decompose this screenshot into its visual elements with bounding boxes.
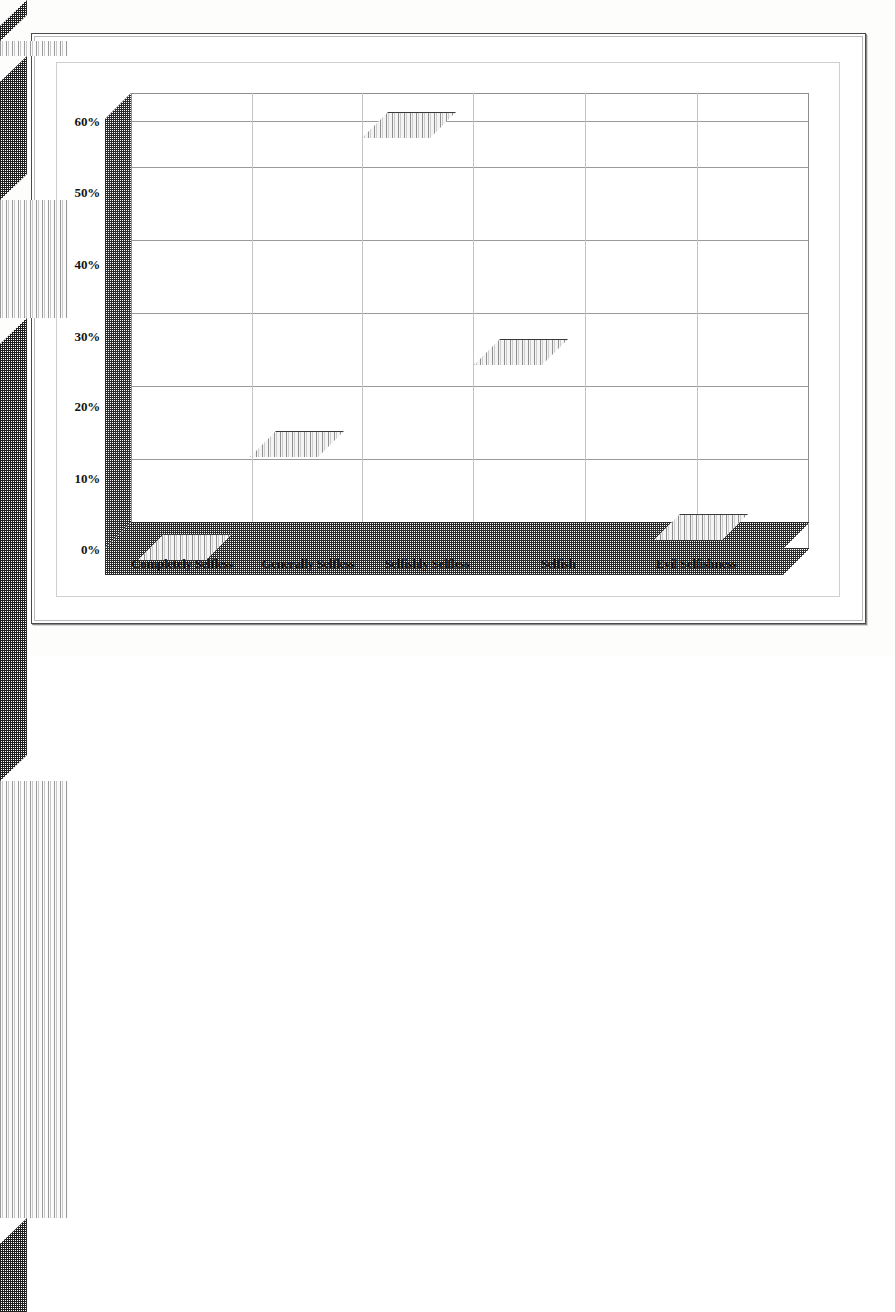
bar-3-front-face[interactable] (0, 781, 68, 1218)
chart-plot-border (56, 62, 840, 597)
bar-4-side-face (0, 1218, 27, 1312)
